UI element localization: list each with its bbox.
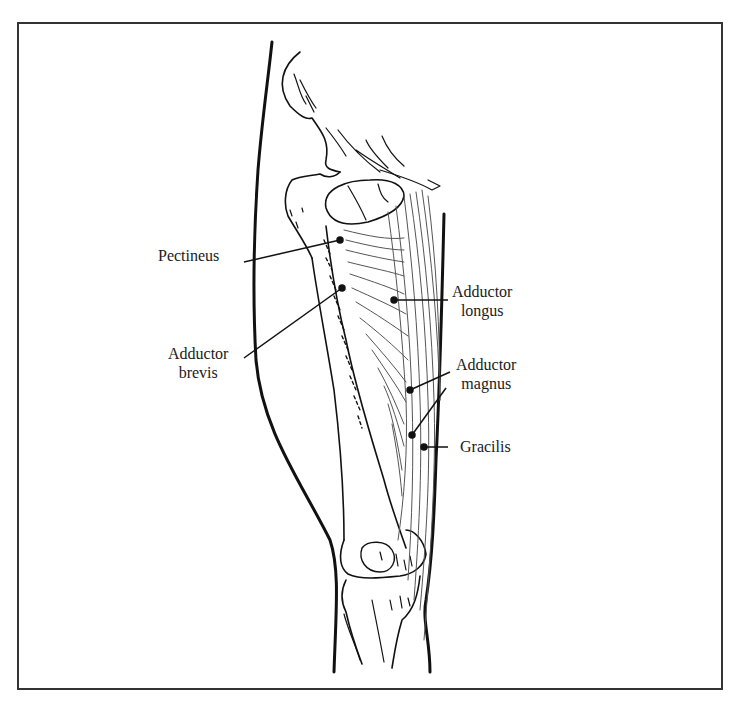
leader-dot-pectineus — [337, 237, 343, 243]
label-adductor-longus: Adductor longus — [452, 282, 512, 320]
label-adductor-longus-line2: longus — [452, 301, 512, 320]
label-adductor-magnus: Adductor magnus — [456, 355, 516, 393]
leader-dot-adductor-longus — [391, 297, 397, 303]
linea-aspera-dashes — [324, 240, 362, 428]
label-adductor-brevis-line2: brevis — [168, 363, 228, 382]
label-pectineus-text: Pectineus — [158, 247, 219, 264]
femur-shaft-right — [326, 226, 406, 548]
pelvis-outline — [282, 52, 340, 172]
patella — [361, 542, 394, 572]
label-adductor-longus-line1: Adductor — [452, 282, 512, 301]
leader-adductor-magnus — [410, 372, 450, 390]
label-pectineus: Pectineus — [158, 246, 219, 265]
label-adductor-brevis-line1: Adductor — [168, 344, 228, 363]
leader-dot-gracilis-secondary — [409, 432, 415, 438]
femoral-condyles — [341, 530, 426, 578]
label-gracilis: Gracilis — [460, 437, 511, 456]
label-adductor-magnus-line1: Adductor — [456, 355, 516, 374]
label-adductor-magnus-line2: magnus — [456, 374, 516, 393]
greater-trochanter — [285, 172, 340, 258]
leader-dot-adductor-magnus — [407, 387, 413, 393]
leader-dot-gracilis — [421, 444, 427, 450]
label-gracilis-text: Gracilis — [460, 438, 511, 455]
thigh-anatomy-illustration — [0, 0, 748, 712]
label-adductor-brevis: Adductor brevis — [168, 344, 228, 382]
leader-dot-adductor-brevis — [339, 285, 345, 291]
femur-shaft-left — [312, 258, 344, 540]
tibia — [342, 576, 420, 668]
